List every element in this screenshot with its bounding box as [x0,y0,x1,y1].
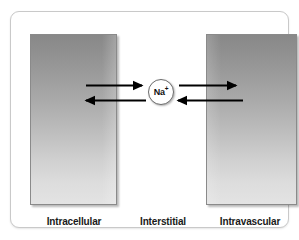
compartment-labels-row: Intracellular Interstitial Intravascular [25,212,297,230]
sodium-ion-label: Na+ [154,88,169,97]
compartment-label-interstitial: Interstitial [123,216,203,227]
box-sheen-right [207,35,221,204]
sodium-charge-superscript: + [165,85,169,92]
compartment-label-intracellular: Intracellular [25,216,123,227]
compartment-box-intracellular [30,34,117,205]
sodium-ion-node: Na+ [148,79,174,105]
diagram-root: Na+ Intracellular Interstitial Intravasc… [0,0,299,240]
compartment-box-intravascular [206,34,297,205]
diagram-frame: Na+ Intracellular Interstitial Intravasc… [10,11,289,228]
box-sheen-left [102,35,116,204]
compartment-label-intravascular: Intravascular [203,216,297,227]
